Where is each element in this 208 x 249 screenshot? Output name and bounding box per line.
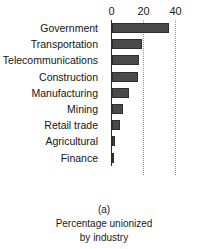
category-label-telecommunications: Telecommunications: [3, 55, 98, 66]
bar-row-mining: Mining: [0, 101, 208, 117]
bar-row-telecommunications: Telecommunications: [0, 52, 208, 68]
bar-construction: [112, 72, 138, 82]
bar-manufacturing: [112, 88, 129, 98]
panel-identifier: (a): [0, 203, 208, 217]
caption-line-2: by industry: [0, 231, 208, 245]
bar-agricultural: [112, 136, 115, 146]
bar-chart-figure: 0 20 40 Government Transportation Teleco…: [0, 0, 208, 249]
category-label-finance: Finance: [61, 152, 98, 163]
bar-government: [112, 23, 169, 33]
caption-line-1: Percentage unionized: [0, 217, 208, 231]
bar-rows: Government Transportation Telecommunicat…: [0, 20, 208, 166]
bar-telecommunications: [112, 55, 139, 65]
plot-area: 0 20 40 Government Transportation Teleco…: [0, 0, 208, 200]
bar-mining: [112, 104, 123, 114]
category-label-government: Government: [40, 23, 98, 34]
xtick-label-40: 40: [169, 6, 181, 17]
bar-row-retail-trade: Retail trade: [0, 117, 208, 133]
bar-row-government: Government: [0, 20, 208, 36]
bar-row-construction: Construction: [0, 69, 208, 85]
bar-finance: [112, 153, 114, 163]
category-label-mining: Mining: [67, 104, 98, 115]
bar-retail-trade: [112, 120, 120, 130]
bar-row-manufacturing: Manufacturing: [0, 85, 208, 101]
category-label-transportation: Transportation: [31, 39, 98, 50]
category-label-construction: Construction: [39, 71, 98, 82]
bar-transportation: [112, 39, 142, 49]
xtick-label-0: 0: [108, 6, 114, 17]
category-label-agricultural: Agricultural: [45, 136, 98, 147]
category-label-manufacturing: Manufacturing: [31, 87, 98, 98]
figure-caption: (a) Percentage unionized by industry: [0, 203, 208, 245]
bar-row-finance: Finance: [0, 150, 208, 166]
bar-row-agricultural: Agricultural: [0, 133, 208, 149]
xtick-label-20: 20: [137, 6, 149, 17]
category-label-retail-trade: Retail trade: [44, 120, 98, 131]
bar-row-transportation: Transportation: [0, 36, 208, 52]
